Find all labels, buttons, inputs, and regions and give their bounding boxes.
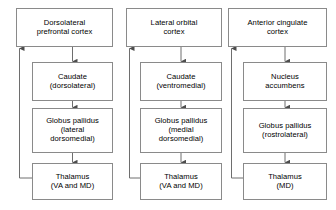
feedback-thalamus-to-loc (130, 48, 141, 178)
node-label-line: (VA and MD) (159, 182, 202, 191)
node-thalamus-va-and-md-2: Thalamus (VA and MD) (140, 163, 222, 200)
node-caudate-dorsolateral: Caudate (dorsolateral) (32, 62, 113, 101)
feedback-thalamus-to-acc (232, 48, 244, 178)
node-label-line: accumbens (265, 82, 304, 91)
node-thalamus-md: Thalamus (MD) (243, 163, 327, 200)
node-label-line: (MD) (276, 182, 293, 191)
node-dorsolateral-prefrontal-cortex: Dorsolateral prefrontal cortex (16, 8, 113, 47)
node-label-line: (VA and MD) (51, 182, 94, 191)
node-thalamus-va-and-md-1: Thalamus (VA and MD) (32, 163, 113, 200)
node-label-line: cortex (164, 28, 185, 37)
node-label-line: cortex (267, 28, 288, 37)
node-label-line: dorsomedial) (50, 135, 95, 144)
node-caudate-ventromedial: Caudate (ventromedial) (140, 62, 222, 101)
node-lateral-orbital-cortex: Lateral orbital cortex (126, 8, 222, 47)
node-label-line: prefrontal cortex (37, 28, 93, 37)
feedback-thalamus-to-dlpfc (20, 48, 33, 178)
node-label-line: dorsomedial) (159, 135, 204, 144)
node-label-line: (ventromedial) (156, 82, 205, 91)
node-anterior-cingulate-cortex: Anterior cingulate cortex (228, 8, 327, 47)
node-globus-pallidus-medial-dorsomedial: Globus pallidus (medial dorsomedial) (140, 108, 222, 153)
node-globus-pallidus-rostrolateral: Globus pallidus (rostrolateral) (243, 108, 327, 153)
node-nucleus-accumbens: Nucleus accumbens (243, 62, 327, 101)
node-label-line: (rostrolateral) (262, 131, 308, 140)
node-label-line: (dorsolateral) (50, 82, 95, 91)
node-globus-pallidus-lateral-dorsomedial: Globus pallidus (lateral dorsomedial) (32, 108, 113, 153)
circuit-diagram: Dorsolateral prefrontal cortex Caudate (… (0, 0, 336, 210)
